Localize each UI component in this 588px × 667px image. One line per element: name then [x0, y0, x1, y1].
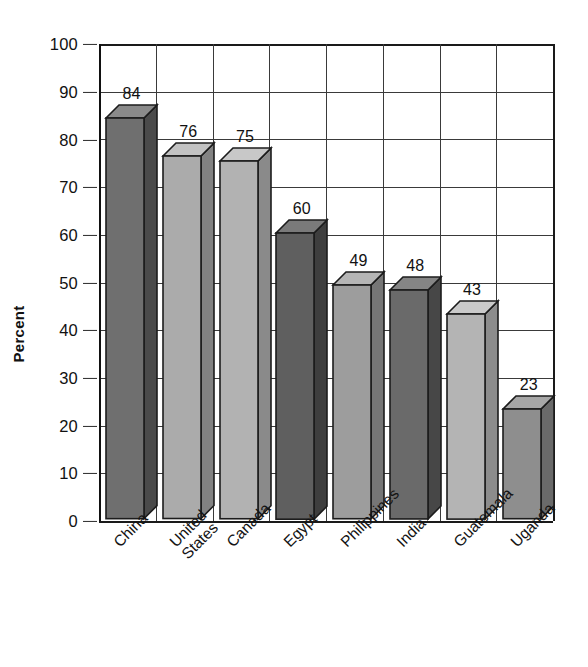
bar-chart: Percent 1009080706050403020100 847675604…: [0, 0, 588, 667]
x-label-line: Philippines: [337, 485, 402, 550]
x-label-guatemala: Guatemala: [450, 484, 516, 550]
x-label-egypt: Egypt: [280, 510, 320, 550]
x-label-philippines: Philippines: [337, 485, 402, 550]
x-label-canada: Canada: [223, 500, 274, 551]
x-label-india: India: [393, 514, 429, 550]
x-label-line: India: [393, 514, 429, 550]
x-label-united-states: UnitedStates: [166, 506, 222, 562]
x-label-line: Egypt: [280, 510, 320, 550]
x-label-china: China: [110, 509, 151, 550]
x-label-line: China: [110, 509, 151, 550]
x-label-line: Guatemala: [450, 484, 516, 550]
x-axis-labels: ChinaUnitedStatesCanadaEgyptPhilippinesI…: [0, 0, 588, 667]
x-label-line: Canada: [223, 500, 274, 551]
x-label-uganda: Uganda: [507, 500, 558, 551]
x-label-line: Uganda: [507, 500, 558, 551]
